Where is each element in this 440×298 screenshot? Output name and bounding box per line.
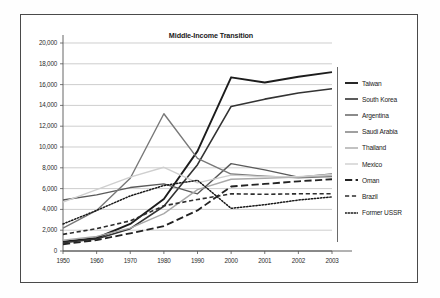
legend-item-brazil[interactable]: Brazil xyxy=(345,188,419,204)
y-axis-tick-label: 2,000 xyxy=(23,226,57,233)
legend-item-taiwan[interactable]: Taiwan xyxy=(345,75,419,91)
legend-item-saudi-arabia[interactable]: Saudi Arabia xyxy=(345,124,419,140)
legend-label: Oman xyxy=(362,177,379,184)
legend-label: Brazil xyxy=(362,193,378,200)
y-axis-tick-label: 10,000 xyxy=(23,143,57,150)
x-axis-tick-label: 2002 xyxy=(285,257,311,264)
legend-swatch-icon xyxy=(345,192,358,200)
series-line-argentina xyxy=(63,164,332,200)
chart-legend: TaiwanSouth KoreaArgentinaSaudi ArabiaTh… xyxy=(345,75,419,221)
legend-item-mexico[interactable]: Mexico xyxy=(345,156,419,172)
y-axis-tick-label: 14,000 xyxy=(23,101,57,108)
x-axis-tick-label: 1980 xyxy=(151,257,177,264)
x-axis-tick-label: 2003 xyxy=(319,257,345,264)
legend-item-argentina[interactable]: Argentina xyxy=(345,107,419,123)
legend-swatch-icon xyxy=(345,176,358,184)
chart-frame: Middle-Income Transition 02,0004,0006,00… xyxy=(20,14,418,283)
legend-label: South Korea xyxy=(362,96,397,103)
legend-swatch-icon xyxy=(345,209,358,217)
chart-screenshot: Middle-Income Transition 02,0004,0006,00… xyxy=(0,0,440,298)
legend-label: Former USSR xyxy=(362,209,402,216)
legend-swatch-icon xyxy=(345,111,358,119)
legend-label: Taiwan xyxy=(362,80,382,87)
series-line-taiwan xyxy=(63,72,332,242)
legend-item-south-korea[interactable]: South Korea xyxy=(345,91,419,107)
y-axis-tick-label: 8,000 xyxy=(23,164,57,171)
x-axis-tick-label: 1950 xyxy=(50,257,76,264)
y-axis-tick-label: 16,000 xyxy=(23,81,57,88)
x-axis-tick-label: 2001 xyxy=(252,257,278,264)
legend-label: Argentina xyxy=(362,112,389,119)
x-axis-tick-label: 1970 xyxy=(117,257,143,264)
x-axis-tick-label: 2000 xyxy=(218,257,244,264)
legend-item-former-ussr[interactable]: Former USSR xyxy=(345,205,419,221)
legend-swatch-icon xyxy=(345,79,358,87)
series-line-south-korea xyxy=(63,89,332,243)
y-axis-tick-label: 6,000 xyxy=(23,185,57,192)
legend-swatch-icon xyxy=(345,144,358,152)
y-axis-tick-label: 12,000 xyxy=(23,122,57,129)
legend-item-oman[interactable]: Oman xyxy=(345,172,419,188)
legend-divider xyxy=(337,67,338,242)
y-axis-tick-label: 20,000 xyxy=(23,39,57,46)
legend-label: Thailand xyxy=(362,144,386,151)
y-axis-tick-label: 18,000 xyxy=(23,60,57,67)
legend-item-thailand[interactable]: Thailand xyxy=(345,140,419,156)
x-axis-tick-label: 1960 xyxy=(84,257,110,264)
y-axis-tick-label: 4,000 xyxy=(23,205,57,212)
legend-swatch-icon xyxy=(345,95,358,103)
y-axis-tick-label: 0 xyxy=(23,247,57,254)
legend-label: Mexico xyxy=(362,161,382,168)
x-axis-tick-label: 1990 xyxy=(185,257,211,264)
chart-area: Middle-Income Transition 02,0004,0006,00… xyxy=(21,15,419,284)
series-line-mexico xyxy=(63,167,332,202)
legend-swatch-icon xyxy=(345,128,358,136)
legend-swatch-icon xyxy=(345,160,358,168)
series-line-brazil xyxy=(63,194,332,235)
legend-label: Saudi Arabia xyxy=(362,128,398,135)
